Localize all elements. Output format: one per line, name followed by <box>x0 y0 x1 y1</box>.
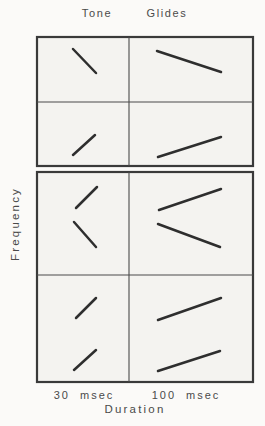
panel-glide-pairs <box>37 172 253 382</box>
y-axis-label: Frequency <box>10 187 22 261</box>
x-tick-100msec: 100 msec <box>152 390 221 401</box>
x-tick-30msec: 30 msec <box>54 390 115 401</box>
panel-single-glides <box>37 37 253 166</box>
x-axis-label: Duration <box>104 404 165 416</box>
glide-panels-svg <box>0 0 265 426</box>
figure-title-glides: Glides <box>147 8 188 19</box>
figure-title-tone: Tone <box>82 8 112 19</box>
tone-glides-figure: Tone Glides Frequency 30 msec 100 msec D… <box>0 0 265 426</box>
